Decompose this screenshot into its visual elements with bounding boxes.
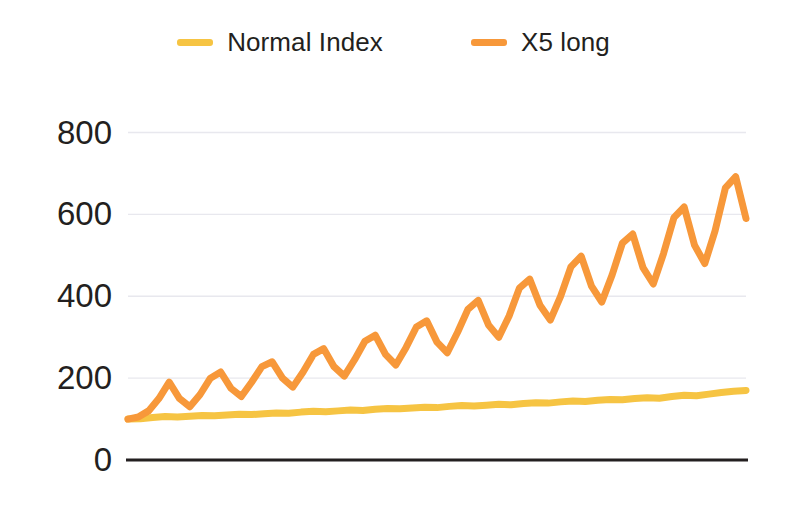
- series-line-normal-index: [128, 390, 746, 419]
- plot-area: 8006004002000: [0, 0, 787, 523]
- series-line-x5-long: [128, 177, 746, 419]
- y-axis-tick-800: 800: [4, 116, 112, 149]
- y-axis-tick-200: 200: [4, 361, 112, 394]
- y-axis-tick-0: 0: [4, 443, 112, 476]
- chart-container: Normal Index X5 long 8006004002000: [0, 0, 787, 523]
- chart-svg: [0, 0, 787, 523]
- y-axis-tick-labels: 8006004002000: [0, 0, 112, 523]
- y-axis-tick-400: 400: [4, 279, 112, 312]
- y-axis-tick-600: 600: [4, 197, 112, 230]
